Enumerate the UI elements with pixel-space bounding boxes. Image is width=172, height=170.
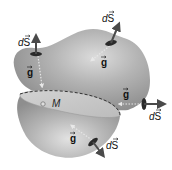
ds-label: dS (102, 13, 115, 24)
g-label: g (101, 57, 107, 68)
ds-label: dS (149, 111, 162, 122)
mass-dot-icon (41, 102, 45, 106)
gauss-law-surface-diagram: M dS g dS g dS g dS g (0, 0, 172, 170)
g-label: g (123, 89, 129, 100)
mass-label: M (52, 98, 61, 109)
ds-label: dS (106, 140, 119, 151)
ds-label: dS (18, 37, 31, 48)
g-label: g (27, 67, 33, 78)
g-label: g (70, 133, 76, 144)
